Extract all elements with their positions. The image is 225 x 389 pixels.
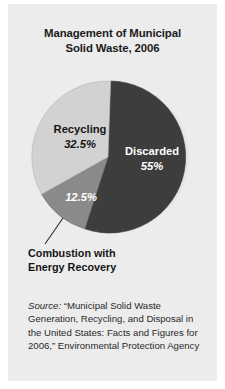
slice-label-discarded-name: Discarded bbox=[113, 144, 191, 159]
source-note-label: Source: bbox=[28, 300, 61, 311]
figure-card: Management of Municipal Solid Waste, 200… bbox=[8, 4, 217, 381]
callout-label-combustion-line-2: Energy Recovery bbox=[28, 261, 116, 275]
slice-label-recycling: Recycling 32.5% bbox=[40, 122, 120, 152]
slice-label-combustion-value: 12.5% bbox=[50, 190, 112, 205]
callout-leader-line bbox=[45, 218, 63, 244]
callout-label-combustion-line-1: Combustion with bbox=[28, 247, 116, 261]
slice-label-discarded: Discarded 55% bbox=[113, 144, 191, 174]
source-note: Source: “Municipal Solid Waste Generatio… bbox=[28, 299, 204, 353]
slice-label-combustion-value-text: 12.5% bbox=[50, 190, 112, 205]
slice-label-discarded-value: 55% bbox=[113, 159, 191, 174]
slice-label-recycling-value: 32.5% bbox=[40, 137, 120, 152]
callout-label-combustion: Combustion with Energy Recovery bbox=[28, 247, 116, 274]
slice-label-recycling-name: Recycling bbox=[40, 122, 120, 137]
